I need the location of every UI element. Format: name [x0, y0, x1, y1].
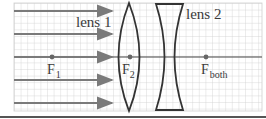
- lens-1-label: lens 1: [76, 14, 111, 30]
- optics-diagram: lens 1 lens 2 F1 F2 Fboth: [0, 0, 266, 119]
- focal-point-f2: [128, 55, 133, 60]
- focal-point-fboth: [204, 55, 209, 60]
- focal-point-f1: [50, 55, 55, 60]
- lens-2-label: lens 2: [186, 6, 221, 22]
